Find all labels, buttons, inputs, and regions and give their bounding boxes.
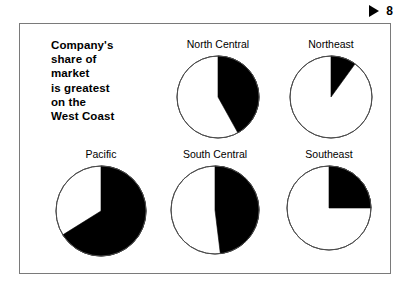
pie-label-pacific: Pacific bbox=[42, 148, 160, 160]
pie-chart-northeast bbox=[272, 54, 390, 140]
pie-label-north-central: North Central bbox=[159, 38, 277, 50]
pie-chart-north-central bbox=[159, 54, 277, 140]
play-triangle-icon[interactable] bbox=[369, 5, 379, 17]
headline-line: share of bbox=[51, 52, 159, 66]
pie-cell-north-central: North Central bbox=[159, 38, 277, 140]
headline-text: Company's share of market is greatest on… bbox=[51, 38, 159, 123]
pie-svg bbox=[285, 164, 373, 252]
pie-cell-southeast: Southeast bbox=[270, 148, 388, 252]
headline-line: West Coast bbox=[51, 109, 159, 123]
headline-line: is greatest bbox=[51, 81, 159, 95]
headline-line: market bbox=[51, 66, 159, 80]
slide-frame: Company's share of market is greatest on… bbox=[19, 23, 391, 274]
pie-label-southeast: Southeast bbox=[270, 148, 388, 160]
pie-svg bbox=[175, 54, 261, 140]
pie-svg bbox=[54, 164, 148, 258]
pie-label-south-central: South Central bbox=[154, 148, 276, 160]
pie-svg bbox=[169, 164, 261, 256]
pie-chart-southeast bbox=[270, 164, 388, 252]
headline-line: on the bbox=[51, 95, 159, 109]
pie-cell-northeast: Northeast bbox=[272, 38, 390, 140]
slide-number: 8 bbox=[386, 5, 393, 17]
pie-label-northeast: Northeast bbox=[272, 38, 390, 50]
slide-header: 8 bbox=[0, 0, 405, 22]
pie-chart-pacific bbox=[42, 164, 160, 258]
pie-share-slice bbox=[215, 166, 259, 254]
pie-cell-south-central: South Central bbox=[154, 148, 276, 256]
pie-cell-pacific: Pacific bbox=[42, 148, 160, 258]
headline-line: Company's bbox=[51, 38, 159, 52]
pie-share-slice bbox=[329, 166, 371, 208]
pie-chart-south-central bbox=[154, 164, 276, 256]
pie-svg bbox=[288, 54, 374, 140]
